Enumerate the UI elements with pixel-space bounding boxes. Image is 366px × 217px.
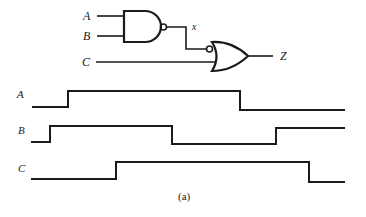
figure-caption: (a) [178, 191, 190, 202]
node-label-x: x [192, 22, 196, 32]
output-label-z: Z [280, 50, 287, 62]
or-gate [212, 42, 248, 71]
waveform-b [31, 126, 345, 144]
input-label-b: B [83, 30, 90, 42]
nand-gate [124, 11, 161, 42]
waveform-label-a: A [17, 89, 24, 100]
wire-x [167, 27, 207, 49]
waveform-c [31, 162, 345, 182]
input-label-c: C [82, 56, 90, 68]
waveform-label-b: B [18, 125, 25, 136]
or-input-bubble [207, 46, 213, 52]
waveform-a [32, 91, 345, 110]
logic-diagram [0, 0, 366, 217]
waveform-label-c: C [18, 163, 25, 174]
input-label-a: A [83, 10, 90, 22]
